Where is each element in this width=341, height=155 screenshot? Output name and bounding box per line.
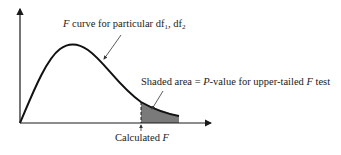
- curve-label-sep: , df: [168, 18, 182, 29]
- shaded-label-arrow: [152, 91, 163, 109]
- curve-label: F curve for particular df1, df2: [63, 19, 185, 30]
- curve-label-text: curve for particular df: [69, 18, 164, 29]
- calc-label-text: Calculated: [115, 132, 163, 143]
- curve-label-arrow: [104, 35, 121, 59]
- shaded-label-text3: test: [313, 76, 330, 87]
- shaded-label-text2: -value for upper-tailed: [210, 76, 307, 87]
- curve-label-sub2: 2: [182, 23, 186, 31]
- calc-label-f: F: [163, 132, 169, 143]
- calculated-f-label: Calculated F: [115, 133, 169, 144]
- shaded-label-text1: Shaded area =: [141, 76, 203, 87]
- shaded-area-label: Shaded area = P-value for upper-tailed F…: [141, 77, 330, 88]
